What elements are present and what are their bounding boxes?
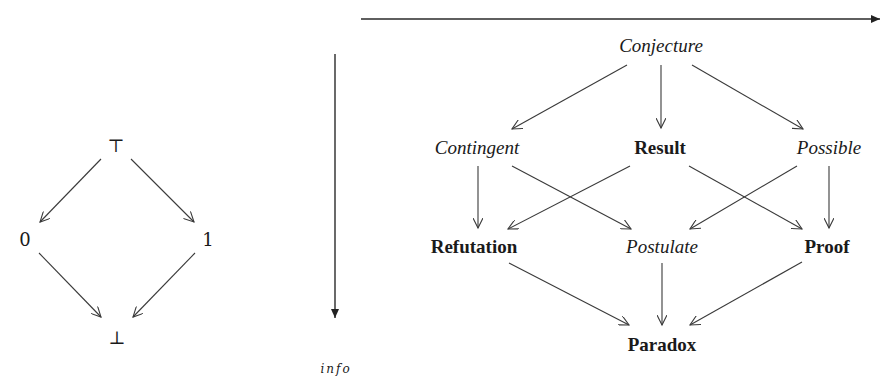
node-postulate: Postulate: [626, 237, 698, 256]
right-lattice-edges: [478, 65, 829, 325]
node-result: Result: [634, 138, 686, 157]
node-refutation: Refutation: [431, 237, 518, 256]
node-proof: Proof: [804, 237, 849, 256]
axes: [335, 19, 880, 318]
left-lattice-edges: [39, 159, 195, 317]
node-contingent: Contingent: [435, 138, 519, 157]
diagram-canvas: [0, 0, 887, 381]
node-top: ⊤: [108, 137, 125, 155]
info-axis-label: info: [320, 363, 351, 375]
node-zero: 0: [19, 231, 30, 249]
node-possible: Possible: [797, 138, 861, 157]
node-conjecture: Conjecture: [619, 36, 703, 55]
node-bottom: ⊥: [109, 329, 126, 347]
node-one: 1: [202, 231, 213, 249]
node-paradox: Paradox: [628, 335, 697, 354]
